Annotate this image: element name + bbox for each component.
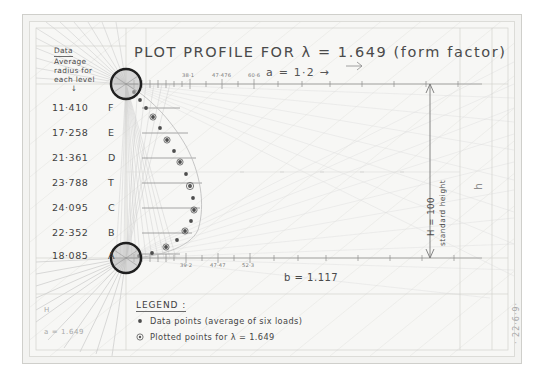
faint-mark-left-2: a = 1.649 [44, 328, 84, 336]
legend-item-0-text: Data points (average of six loads) [150, 316, 302, 326]
legend-markers [30, 22, 514, 356]
edge-note: · 22·6·9· [512, 302, 521, 344]
plot-profile-sheet: Data Average radius for each level ↓ PLO… [0, 0, 542, 376]
paper-drawing-area: Data Average radius for each level ↓ PLO… [29, 21, 515, 357]
faint-mark-left-1: H [44, 306, 50, 314]
legend-filled-dot-icon [138, 319, 142, 323]
legend-item-1-text: Plotted points for λ = 1.649 [150, 332, 275, 342]
paper-sheet: Data Average radius for each level ↓ PLO… [22, 14, 522, 364]
